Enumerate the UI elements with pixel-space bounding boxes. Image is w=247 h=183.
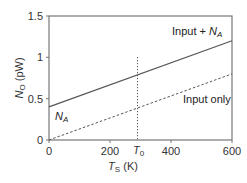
y-tick-label: 1 — [37, 51, 43, 63]
x-tick-label: 600 — [223, 145, 241, 157]
y-axis-label: NO (pW) — [13, 57, 27, 98]
y-tick-label: 0.5 — [28, 93, 43, 105]
chart: 0 0.5 1 1.5 0 200 400 600 T0 TS (K) NO (… — [0, 0, 247, 183]
annotation-input-only: Input only — [183, 93, 231, 105]
annotation-input-plus-na: Input + NA — [172, 25, 222, 39]
x-tick-label-t0: T0 — [133, 144, 145, 158]
x-axis-label: TS (K) — [108, 160, 138, 174]
y-tick-label: 1.5 — [28, 10, 43, 22]
x-tick-label: 400 — [162, 145, 180, 157]
series-input-only — [49, 74, 232, 140]
x-tick-label: 200 — [101, 145, 119, 157]
x-tick-label: 0 — [46, 145, 52, 157]
annotation-na: NA — [55, 110, 68, 124]
y-tick-label: 0 — [37, 134, 43, 146]
